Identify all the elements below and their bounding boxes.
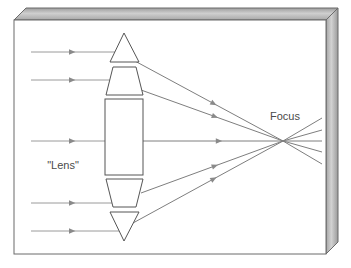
frame-face [14, 20, 326, 254]
diagram-canvas: "Lens"Focus [0, 0, 351, 268]
center-rectangle [105, 99, 143, 175]
frame-top-bevel [14, 8, 338, 20]
frame-right-bevel [326, 8, 338, 254]
lens-label: "Lens" [47, 159, 79, 171]
upper-trapezoid [106, 67, 143, 95]
ray-diagram-figure: "Lens"Focus [0, 0, 351, 268]
lower-trapezoid [106, 179, 143, 207]
picture-frame [14, 8, 338, 254]
focus-label: Focus [270, 110, 300, 122]
